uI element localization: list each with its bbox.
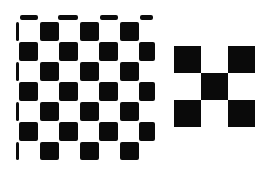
- motif-square: [201, 73, 228, 100]
- motif-square: [228, 46, 255, 73]
- motif-square: [174, 100, 201, 127]
- motif-square: [228, 100, 255, 127]
- x-checker-motif: [0, 0, 264, 169]
- motif-square: [174, 46, 201, 73]
